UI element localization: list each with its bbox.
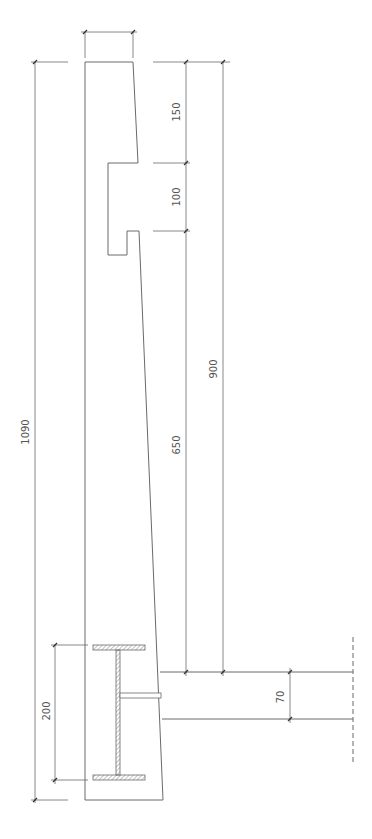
dim-label-100: 100 — [171, 187, 182, 206]
slab-outline — [160, 672, 353, 719]
wall-outline — [85, 62, 163, 800]
web — [116, 650, 120, 775]
dim-label-650: 650 — [171, 435, 182, 454]
dim-label-150: 150 — [171, 102, 182, 121]
steel-i-beam — [93, 645, 161, 780]
dim-label-70: 70 — [275, 691, 286, 704]
section-drawing: 1090 150 100 650 900 200 70 — [0, 0, 372, 839]
dim-label-900: 900 — [208, 359, 219, 378]
bottom-flange — [93, 775, 145, 780]
dim-label-200: 200 — [41, 701, 52, 720]
dim-label-1090: 1090 — [20, 419, 31, 444]
dimension-lines — [31, 32, 290, 803]
dimension-ticks — [33, 30, 292, 802]
top-flange — [93, 645, 145, 650]
stiffener-plate — [120, 693, 161, 698]
